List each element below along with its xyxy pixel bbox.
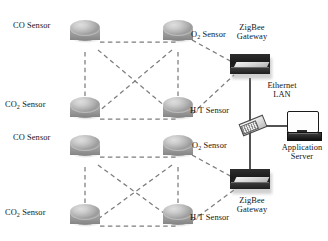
- sensor-label-text: H/T Sensor: [190, 106, 229, 115]
- sensor-node-co-2[interactable]: [70, 135, 100, 159]
- sensor-node-o2-2[interactable]: [163, 135, 193, 159]
- sensor-label-subscript: 2: [17, 212, 20, 218]
- sensor-node-co2-2[interactable]: [70, 204, 100, 228]
- sensor-label-subscript: 2: [198, 145, 201, 151]
- sensor-label-o2-2: O2 Sensor: [192, 141, 227, 150]
- sensor-node-o2-1[interactable]: [163, 20, 193, 44]
- sensor-label-co2-2: CO2 Sensor: [5, 208, 46, 217]
- sensor-label-o2-1: O2 Sensor: [191, 30, 226, 39]
- link-s2-gateway-top: [192, 40, 234, 63]
- ethernet-lan-label: Ethernet LAN: [258, 81, 306, 100]
- node-top: [70, 135, 100, 151]
- sensor-label-co-1: CO Sensor: [13, 21, 50, 30]
- gateway-label-line1: ZigBee: [224, 23, 280, 32]
- gateway-front-panel: [230, 183, 270, 189]
- gateway-label-line2: Gateway: [224, 32, 280, 41]
- sensor-node-ht-1[interactable]: [163, 97, 193, 121]
- gateway-front-panel: [230, 68, 270, 74]
- node-top: [163, 204, 193, 220]
- node-top: [70, 204, 100, 220]
- ethernet-label-line1: Ethernet: [258, 81, 306, 90]
- sensor-node-ht-2[interactable]: [163, 204, 193, 228]
- zigbee-gateway-bottom[interactable]: [230, 169, 270, 193]
- gateway-label-line2: Gateway: [224, 205, 280, 214]
- sensor-label-co-2: CO Sensor: [13, 133, 50, 142]
- application-server-label: Application Server: [276, 143, 328, 162]
- server-base-highlight: [289, 133, 318, 134]
- node-top: [163, 97, 193, 113]
- mesh-link-s5-s8: [98, 165, 172, 219]
- sensor-label-text: CO Sensor: [13, 133, 50, 142]
- server-label-line1: Application: [276, 143, 328, 152]
- monitor-screen: [290, 114, 316, 130]
- gateway-label-line1: ZigBee: [224, 196, 280, 205]
- node-top: [70, 20, 100, 36]
- sensor-label-co2-1: CO2 Sensor: [5, 100, 46, 109]
- sensor-label-text: CO: [5, 100, 17, 109]
- ethernet-switch[interactable]: [240, 117, 266, 134]
- sensor-label-text: CO Sensor: [13, 21, 50, 30]
- link-s6-gateway-bottom: [192, 155, 234, 178]
- sensor-label-subscript: 2: [197, 34, 200, 40]
- zigbee-gateway-top[interactable]: [230, 54, 270, 78]
- zigbee-gateway-top-label: ZigBee Gateway: [224, 23, 280, 42]
- node-top: [70, 97, 100, 113]
- node-top: [163, 135, 193, 151]
- node-top: [163, 20, 193, 36]
- sensor-label-subscript: 2: [17, 104, 20, 110]
- sensor-node-co2-1[interactable]: [70, 97, 100, 121]
- sensor-label-text: CO: [5, 208, 17, 217]
- sensor-label-ht-1: H/T Sensor: [190, 106, 229, 115]
- sensor-node-co-1[interactable]: [70, 20, 100, 44]
- mesh-link-s6-s7: [98, 165, 172, 219]
- network-diagram-canvas: CO Sensor O2 Sensor CO2 Sensor H/T Senso…: [0, 0, 328, 241]
- zigbee-gateway-bottom-label: ZigBee Gateway: [224, 196, 280, 215]
- server-label-line2: Server: [276, 152, 328, 161]
- application-server[interactable]: [287, 111, 320, 140]
- ethernet-label-line2: LAN: [258, 90, 306, 99]
